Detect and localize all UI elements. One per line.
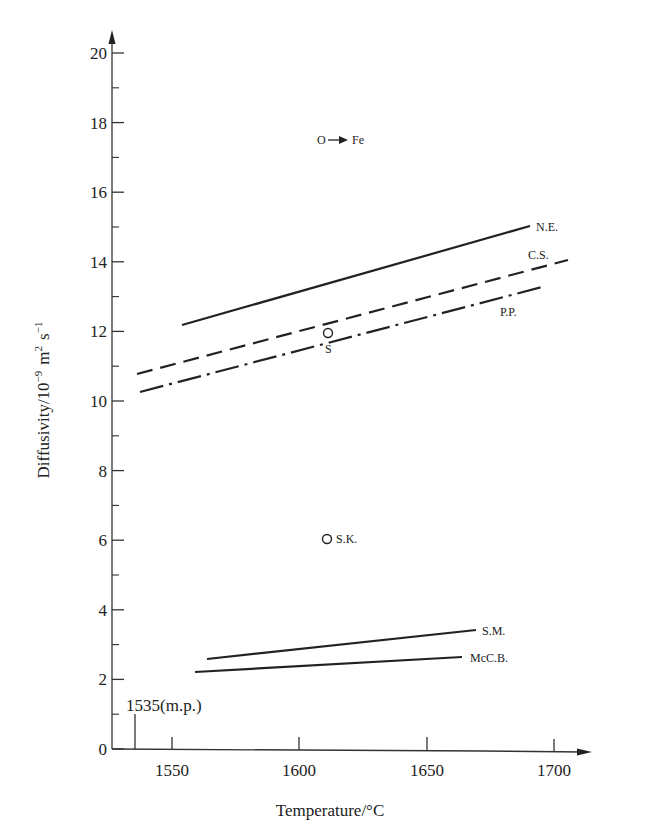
arrow-right-icon [339, 136, 348, 144]
y-tick-label: 18 [90, 114, 107, 133]
y-axis-title-main: Diffusivity/10 [34, 382, 53, 478]
y-tick-label: 0 [99, 740, 108, 759]
point-label-s: S [325, 342, 332, 356]
y-tick-label: 10 [90, 392, 107, 411]
series-label-mccb: McC.B. [470, 651, 508, 665]
series-label-ne: N.E. [536, 220, 558, 234]
y-axis-title-unit-s: s [34, 333, 53, 340]
y-axis-title: Diffusivity/10−9m2s−1 [32, 322, 53, 479]
y-tick-label: 16 [90, 183, 107, 202]
x-axis-arrow-icon [577, 749, 592, 756]
chart-title-fe: Fe [352, 133, 364, 147]
x-tick-labels: 1550 1600 1650 1700 [155, 761, 571, 780]
series-line-mccb [195, 657, 462, 672]
y-axis-title-exp: 2 [32, 346, 44, 352]
x-tick-label: 1600 [282, 761, 316, 780]
x-tick-label: 1550 [155, 761, 189, 780]
melting-point-label: 1535(m.p.) [126, 696, 202, 715]
y-tick-label: 12 [90, 322, 107, 341]
x-tick-label: 1700 [537, 761, 571, 780]
diffusivity-chart: 0 2 4 6 8 10 12 14 16 18 20 1535(m.p.) 1… [0, 0, 658, 840]
y-tick-label: 4 [99, 601, 108, 620]
y-axis-title-exp: −9 [32, 370, 44, 382]
series-line-pp [140, 286, 546, 392]
series-label-cs: C.S. [528, 248, 549, 262]
series-label-sm: S.M. [482, 624, 505, 638]
y-axis-arrow-icon [109, 30, 116, 44]
series-line-ne [182, 226, 530, 325]
y-tick-labels: 0 2 4 6 8 10 12 14 16 18 20 [90, 44, 108, 759]
y-tick-label: 6 [99, 531, 108, 550]
y-tick-label: 2 [99, 670, 108, 689]
y-axis-title-exp: −1 [32, 322, 44, 334]
series-line-sm [207, 630, 476, 659]
y-tick-label: 20 [90, 44, 107, 63]
y-tick-label: 14 [90, 253, 108, 272]
y-axis-title-unit-m: m [34, 351, 53, 364]
data-point-s [324, 329, 333, 338]
data-point-sk [323, 535, 332, 544]
x-tick-label: 1650 [410, 761, 444, 780]
point-label-sk: S.K. [336, 532, 357, 546]
x-axis-extension [482, 751, 584, 752]
x-axis-title: Temperature/°C [276, 801, 385, 820]
chart-title-o: O [317, 133, 326, 147]
series-label-pp: P.P. [500, 305, 517, 319]
svg-text:Diffusivity/10−9m2s−1: Diffusivity/10−9m2s−1 [32, 322, 53, 479]
y-tick-label: 8 [99, 462, 108, 481]
